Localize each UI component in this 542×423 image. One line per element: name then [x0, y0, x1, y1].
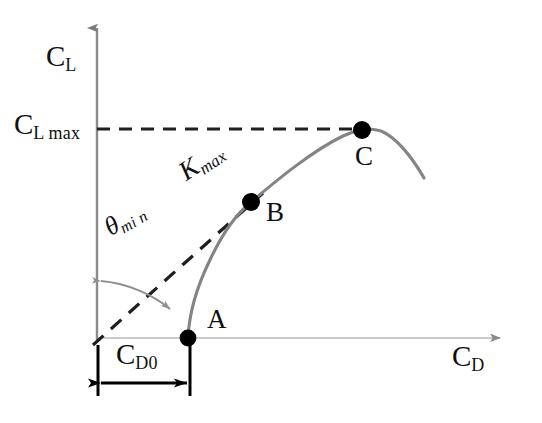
clmax-label-subscript: L max — [33, 123, 80, 143]
y-axis-label: CL — [46, 42, 77, 74]
clmax-label-base: C — [14, 108, 33, 140]
point-a-label: A — [207, 306, 227, 333]
y-axis-label-base: C — [46, 40, 65, 72]
cd0-label-subscript: D0 — [135, 353, 157, 373]
point-a-label-text: A — [207, 304, 227, 334]
clmax-label: CL max — [14, 110, 80, 142]
point-b-marker — [242, 193, 260, 211]
point-a-marker — [180, 330, 197, 347]
drag-polar-figure: CL CL max CD CD0 Kmax θmi n A B C — [0, 0, 542, 423]
theta-min-arc — [101, 281, 170, 309]
cd0-label-base: C — [116, 338, 135, 370]
y-axis-label-subscript: L — [65, 55, 76, 75]
point-c-label: C — [355, 143, 373, 170]
x-axis-label-base: C — [452, 340, 471, 372]
x-axis-label-subscript: D — [471, 355, 484, 375]
x-axis-label: CD — [452, 342, 485, 374]
point-b-label: B — [266, 199, 284, 226]
point-b-label-text: B — [266, 197, 284, 227]
point-c-label-text: C — [355, 141, 373, 171]
cd0-label: CD0 — [116, 340, 158, 372]
point-c-marker — [353, 121, 371, 139]
